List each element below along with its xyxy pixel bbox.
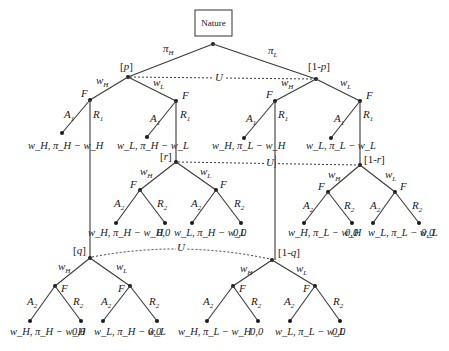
svg-text:R2: R2 bbox=[233, 197, 245, 212]
svg-text:R2: R2 bbox=[411, 199, 423, 214]
svg-text:F: F bbox=[317, 180, 325, 192]
svg-text:A1: A1 bbox=[245, 112, 256, 127]
belief-1-p: [1-p] bbox=[308, 60, 330, 72]
pi-l-label: πL bbox=[268, 44, 278, 59]
svg-text:A2: A2 bbox=[100, 295, 112, 310]
info-set-label-3: U bbox=[177, 241, 186, 253]
payoff: 0,0 bbox=[345, 227, 359, 238]
payoff: 0,0 bbox=[332, 326, 346, 337]
payoff: 0,0 bbox=[157, 227, 171, 238]
payoff: w_H, π_L − w_H bbox=[212, 140, 287, 151]
payoff: w_L, π_H − w_L bbox=[117, 140, 189, 151]
belief-p: [p] bbox=[120, 60, 133, 72]
payoff: 0,0 bbox=[233, 227, 247, 238]
svg-text:F: F bbox=[60, 282, 68, 294]
svg-text:F: F bbox=[129, 178, 137, 190]
svg-text:R2: R2 bbox=[72, 295, 84, 310]
payoff: w_H, π_L − w_H bbox=[178, 326, 253, 337]
svg-text:A2: A2 bbox=[283, 295, 295, 310]
wh-label: wH bbox=[281, 76, 294, 91]
wl-label: wL bbox=[153, 76, 164, 91]
svg-text:[1-q]: [1-q] bbox=[278, 246, 300, 258]
payoff: w_L, π_L − w_L bbox=[306, 140, 376, 151]
payoff: 0,0 bbox=[148, 326, 162, 337]
svg-text:R2: R2 bbox=[250, 295, 262, 310]
game-tree: Nature πH πL [p] [1-p] U wH wL wH wL F F… bbox=[0, 0, 449, 351]
nature-label: Nature bbox=[201, 18, 226, 28]
svg-text:wL: wL bbox=[200, 165, 211, 180]
payoff: w_H, π_H − w_H bbox=[88, 227, 165, 238]
svg-text:A1: A1 bbox=[149, 112, 160, 127]
svg-text:A2: A2 bbox=[202, 295, 214, 310]
svg-text:F: F bbox=[117, 282, 125, 294]
svg-text:wH: wH bbox=[328, 168, 341, 183]
svg-text:R2: R2 bbox=[332, 295, 344, 310]
svg-text:A2: A2 bbox=[26, 295, 38, 310]
svg-text:wH: wH bbox=[240, 262, 253, 277]
svg-text:[r]: [r] bbox=[160, 150, 172, 162]
svg-text:wL: wL bbox=[296, 262, 307, 277]
svg-text:R2: R2 bbox=[343, 199, 355, 214]
info-set-label-2: U bbox=[266, 156, 275, 168]
svg-text:[1-r]: [1-r] bbox=[364, 153, 385, 165]
info-set-label-1: U bbox=[215, 71, 224, 83]
svg-text:R1: R1 bbox=[179, 108, 190, 123]
edge-pi-l bbox=[213, 44, 316, 79]
svg-text:A2: A2 bbox=[369, 199, 381, 214]
svg-text:A2: A2 bbox=[302, 199, 314, 214]
svg-text:F: F bbox=[181, 89, 189, 101]
svg-text:F: F bbox=[302, 282, 310, 294]
svg-text:A1: A1 bbox=[333, 112, 344, 127]
svg-text:F: F bbox=[365, 89, 373, 101]
payoff: w_H, π_H − w_H bbox=[28, 140, 105, 151]
svg-text:wH: wH bbox=[140, 165, 153, 180]
svg-text:R1: R1 bbox=[277, 108, 288, 123]
svg-text:[q]: [q] bbox=[73, 244, 86, 256]
svg-text:R2: R2 bbox=[156, 197, 168, 212]
svg-text:F: F bbox=[219, 178, 227, 190]
svg-text:A2: A2 bbox=[113, 197, 125, 212]
svg-text:wH: wH bbox=[58, 260, 71, 275]
svg-text:wL: wL bbox=[116, 260, 127, 275]
pi-h-label: πH bbox=[163, 42, 175, 57]
svg-text:wL: wL bbox=[385, 168, 396, 183]
svg-text:F: F bbox=[399, 180, 407, 192]
payoff: 0,0 bbox=[250, 326, 264, 337]
svg-text:R1: R1 bbox=[362, 108, 373, 123]
svg-text:A2: A2 bbox=[190, 197, 202, 212]
wl-label: wL bbox=[340, 76, 351, 91]
svg-text:F: F bbox=[265, 88, 273, 100]
payoff: 0,0 bbox=[421, 227, 435, 238]
svg-text:R1: R1 bbox=[92, 108, 103, 123]
wh-label: wH bbox=[96, 74, 109, 89]
svg-text:F: F bbox=[80, 87, 88, 99]
svg-text:R2: R2 bbox=[148, 295, 160, 310]
svg-text:F: F bbox=[238, 282, 246, 294]
svg-text:A1: A1 bbox=[63, 108, 74, 123]
payoff: 0,0 bbox=[72, 326, 86, 337]
